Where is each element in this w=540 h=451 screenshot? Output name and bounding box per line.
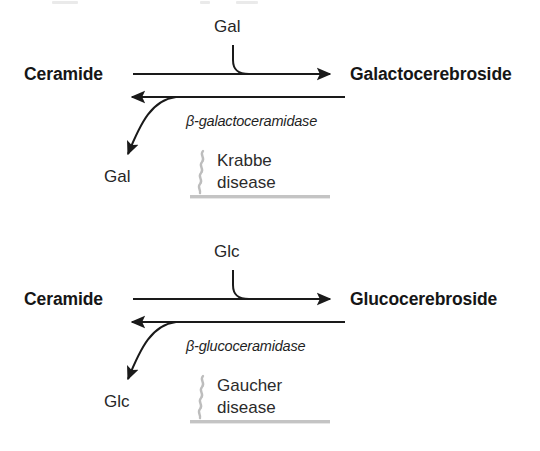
sugar-output-label: Glc bbox=[104, 393, 130, 410]
disease-label-line2: disease bbox=[217, 172, 276, 194]
product-label: Galactocerebroside bbox=[350, 66, 512, 84]
disease-label-line1: Gaucher bbox=[217, 375, 282, 397]
substrate-label: Ceramide bbox=[24, 291, 103, 309]
sugar-output-label: Gal bbox=[104, 168, 130, 185]
disease-label: Krabbe disease bbox=[217, 150, 276, 194]
disease-label-line1: Krabbe bbox=[217, 150, 276, 172]
reaction-diagram: Ceramide Galactocerebroside Gal Gal β-ga… bbox=[0, 0, 540, 451]
reaction-block-galactocerebroside: Ceramide Galactocerebroside Gal Gal β-ga… bbox=[0, 10, 540, 210]
reaction-block-glucocerebroside: Ceramide Glucocerebroside Glc Glc β-gluc… bbox=[0, 235, 540, 435]
disease-label-line2: disease bbox=[217, 397, 282, 419]
enzyme-label: β-glucoceramidase bbox=[186, 339, 305, 354]
enzyme-label: β-galactoceramidase bbox=[186, 114, 317, 129]
sugar-input-label: Gal bbox=[214, 18, 240, 35]
sugar-input-label: Glc bbox=[214, 243, 240, 260]
substrate-label: Ceramide bbox=[24, 66, 103, 84]
disease-label: Gaucher disease bbox=[217, 375, 282, 419]
product-label: Glucocerebroside bbox=[350, 291, 497, 309]
scan-artifact-strip bbox=[0, 0, 540, 9]
